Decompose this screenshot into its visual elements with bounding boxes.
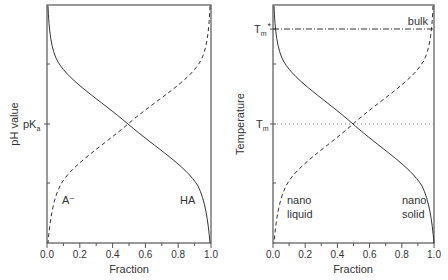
ha-label: HA — [180, 194, 196, 206]
left-xtick-label: 0.0 — [40, 249, 54, 260]
right-x-axis-title: Fraction — [333, 263, 373, 275]
left-plot-frame — [47, 5, 211, 243]
right-chart: 0.0 0.2 0.4 0.6 0.8 1.0 Fraction Tempera… — [234, 5, 441, 275]
right-xtick-label: 0.8 — [395, 249, 409, 260]
left-x-axis-title: Fraction — [109, 263, 149, 275]
right-y-axis-title: Temperature — [234, 93, 246, 155]
left-xtick-label: 0.4 — [106, 249, 120, 260]
nano-solid-label-2: solid — [402, 208, 425, 220]
figure: 0.0 0.2 0.4 0.6 0.8 1.0 Fraction pH valu… — [0, 0, 448, 280]
right-xtick-label: 0.0 — [266, 249, 280, 260]
left-chart: 0.0 0.2 0.4 0.6 0.8 1.0 Fraction pH valu… — [8, 5, 218, 275]
tm-star-label: Tm* — [254, 21, 272, 37]
bulk-label: bulk — [408, 15, 429, 27]
ha-curve — [48, 6, 210, 243]
nano-liquid-label-2: liquid — [287, 208, 313, 220]
left-xticks — [47, 243, 211, 248]
a-minus-label: A⁻ — [62, 194, 75, 206]
pka-label: pKa — [23, 118, 40, 132]
left-xtick-label: 0.8 — [171, 249, 185, 260]
tm-label: Tm — [256, 118, 269, 132]
right-xtick-label: 1.0 — [427, 249, 441, 260]
left-xtick-label: 0.2 — [73, 249, 87, 260]
right-xtick-label: 0.6 — [363, 249, 377, 260]
left-xtick-label: 1.0 — [204, 249, 218, 260]
right-xtick-label: 0.4 — [330, 249, 344, 260]
left-xtick-label: 0.6 — [138, 249, 152, 260]
right-xtick-label: 0.2 — [298, 249, 312, 260]
nano-liquid-label-1: nano — [287, 194, 311, 206]
nano-solid-label-1: nano — [402, 194, 426, 206]
right-xticks — [273, 243, 434, 248]
left-y-axis-title: pH value — [8, 102, 20, 145]
